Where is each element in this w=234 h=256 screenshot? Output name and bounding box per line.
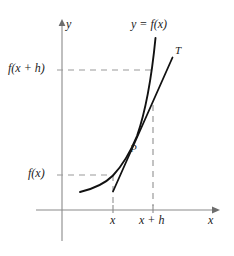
y-axis-arrow-icon [59, 19, 66, 26]
y-value-label-fx: f(x) [28, 167, 45, 179]
y-value-label-fxh: f(x + h) [8, 62, 45, 74]
guide-lines [57, 70, 155, 206]
y-axis-label: y [66, 18, 71, 30]
tangent-line [113, 58, 173, 192]
curve-label: y = f(x) [131, 18, 167, 30]
point-label: P [130, 143, 137, 154]
figure-container: f(x + h) f(x) y y = f(x) T P x x + h x [0, 0, 234, 256]
x-plus-h-tick-label: x + h [139, 214, 164, 226]
tangent-label: T [175, 45, 181, 56]
x-axis-arrow-icon [212, 206, 220, 213]
derivative-diagram-svg [0, 0, 234, 256]
x-axis [36, 206, 220, 213]
function-curve [80, 38, 156, 192]
x-axis-ticks [113, 205, 153, 213]
x-tick-label: x [110, 214, 115, 226]
x-axis-label: x [208, 214, 213, 226]
y-axis [59, 19, 66, 241]
